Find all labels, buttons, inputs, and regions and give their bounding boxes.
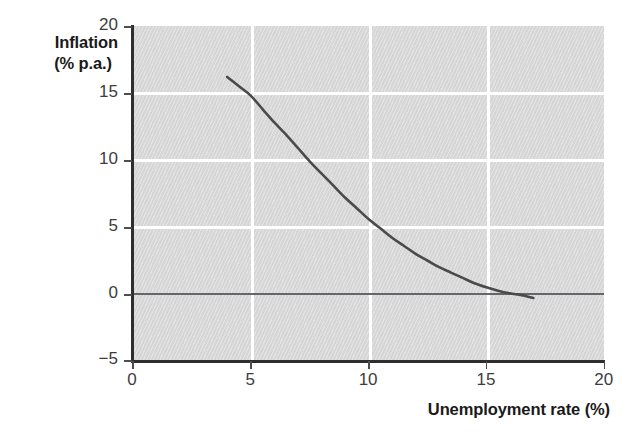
chart-curve-layer <box>0 0 623 432</box>
phillips-curve-line <box>227 77 533 298</box>
phillips-curve-figure: Inflation (% p.a.) 20 15 10 5 0 −5 <box>0 0 623 432</box>
x-axis-title: Unemployment rate (%) <box>200 400 610 419</box>
